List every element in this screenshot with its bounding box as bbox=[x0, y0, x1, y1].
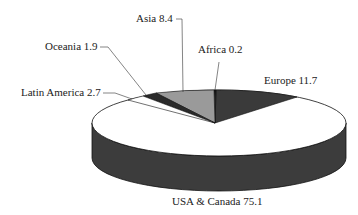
pie-chart: Asia 8.4 Africa 0.2 Oceania 1.9 Europe 1… bbox=[0, 0, 358, 215]
leader-oceania bbox=[100, 47, 146, 95]
label-usa-canada: USA & Canada 75.1 bbox=[172, 196, 262, 207]
label-africa: Africa 0.2 bbox=[198, 44, 243, 55]
label-europe: Europe 11.7 bbox=[264, 75, 317, 86]
leader-latin-america bbox=[103, 93, 132, 99]
label-oceania: Oceania 1.9 bbox=[45, 41, 98, 52]
leader-africa bbox=[215, 62, 219, 90]
pie-chart-graphic bbox=[0, 0, 358, 215]
label-asia: Asia 8.4 bbox=[136, 13, 173, 24]
label-latin-america: Latin America 2.7 bbox=[21, 87, 101, 98]
leader-asia bbox=[176, 19, 183, 92]
